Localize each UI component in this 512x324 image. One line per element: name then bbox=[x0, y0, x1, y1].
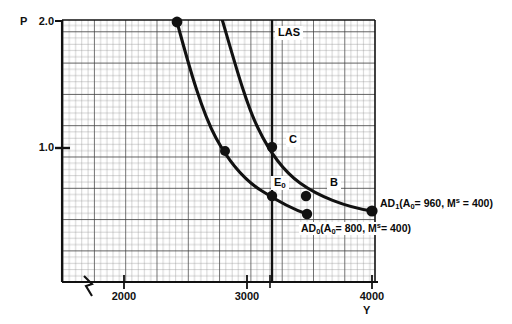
label-point-c: C bbox=[286, 133, 300, 147]
caption-ad1-m-value: = 400) bbox=[460, 197, 493, 209]
caption-ad1-m: M bbox=[447, 197, 456, 209]
x-tick-label-4000: 4000 bbox=[342, 290, 402, 302]
x-axis-title: Y bbox=[363, 304, 371, 316]
caption-ad1-name: AD bbox=[380, 197, 395, 209]
label-las: LAS bbox=[275, 26, 303, 40]
marker-e0 bbox=[267, 191, 277, 201]
y-tick-label-2: 2.0 bbox=[18, 15, 54, 27]
aggregate-demand-supply-chart: P 2.0 1.0 2000 3000 4000 Y LAS C E0 B AD… bbox=[0, 0, 512, 324]
caption-ad0-name: AD bbox=[301, 222, 316, 234]
x-tick-label-2000: 2000 bbox=[94, 290, 154, 302]
caption-ad0-a-sub: 0 bbox=[331, 227, 335, 236]
caption-ad0-a-value: = 800, bbox=[336, 222, 368, 234]
caption-ad0-sub: 0 bbox=[316, 227, 320, 236]
marker-ad1-end bbox=[366, 205, 377, 216]
caption-ad0-m-sup: s bbox=[377, 221, 381, 230]
chart-canvas bbox=[0, 0, 512, 324]
marker-ad0-mid bbox=[220, 146, 230, 156]
caption-ad1: AD1(A0= 960, Ms = 400) bbox=[378, 197, 495, 210]
marker-c bbox=[267, 142, 277, 152]
marker-ad0-end bbox=[302, 209, 312, 219]
label-point-b: B bbox=[327, 176, 341, 190]
marker-b bbox=[301, 191, 311, 201]
caption-ad1-sub: 1 bbox=[395, 202, 399, 211]
caption-ad1-a-sub: 0 bbox=[410, 202, 414, 211]
x-tick-label-3000: 3000 bbox=[217, 290, 277, 302]
caption-ad0-m: M bbox=[368, 222, 377, 234]
caption-ad1-a-value: = 960, bbox=[415, 197, 447, 209]
marker-ad0-top bbox=[172, 17, 183, 28]
caption-ad0: AD0(A0= 800, Ms= 400) bbox=[299, 222, 413, 235]
caption-ad1-m-sup: s bbox=[456, 196, 460, 205]
y-tick-label-1: 1.0 bbox=[18, 141, 54, 153]
label-point-e0: E0 bbox=[271, 176, 289, 190]
label-point-e0-sub: 0 bbox=[281, 181, 285, 190]
caption-ad0-m-value: = 400) bbox=[381, 222, 411, 234]
plot-grid bbox=[62, 20, 375, 282]
